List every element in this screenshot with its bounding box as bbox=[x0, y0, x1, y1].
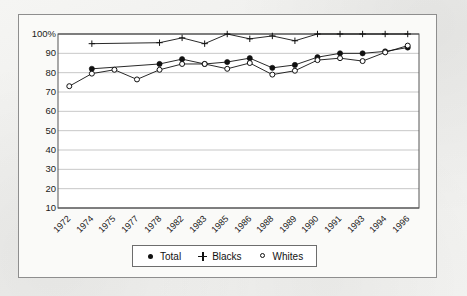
y-tick-40: 40 bbox=[16, 145, 56, 155]
legend-item-blacks[interactable]: Blacks bbox=[198, 251, 241, 262]
chart-canvas: 102030405060708090100% 19721974197519771… bbox=[19, 15, 438, 279]
legend-item-total[interactable]: Total bbox=[146, 251, 181, 262]
legend-label-blacks: Blacks bbox=[212, 251, 241, 262]
y-tick-80: 80 bbox=[16, 68, 56, 78]
y-tick-100: 100% bbox=[16, 29, 56, 39]
open-circle-marker-icon bbox=[259, 252, 268, 261]
y-axis-tick-labels: 102030405060708090100% bbox=[19, 15, 56, 279]
legend-item-whites[interactable]: Whites bbox=[259, 251, 304, 262]
chart-legend: Total Blacks Whites bbox=[132, 245, 317, 267]
y-tick-10: 10 bbox=[16, 203, 56, 213]
filled-circle-marker-icon bbox=[146, 252, 155, 261]
y-tick-70: 70 bbox=[16, 87, 56, 97]
y-tick-90: 90 bbox=[16, 49, 56, 59]
plus-marker-icon bbox=[198, 252, 207, 261]
y-tick-60: 60 bbox=[16, 107, 56, 117]
y-tick-30: 30 bbox=[16, 165, 56, 175]
legend-label-whites: Whites bbox=[273, 251, 304, 262]
legend-label-total: Total bbox=[160, 251, 181, 262]
y-tick-20: 20 bbox=[16, 184, 56, 194]
y-tick-50: 50 bbox=[16, 126, 56, 136]
line-chart-plot bbox=[19, 15, 438, 279]
chart-figure-frame: 102030405060708090100% 19721974197519771… bbox=[18, 14, 437, 278]
